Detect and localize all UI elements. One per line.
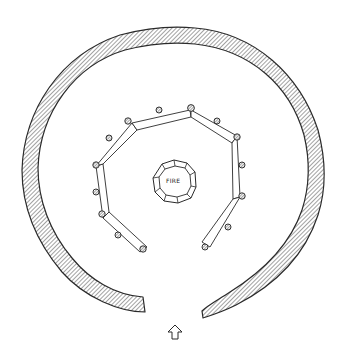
post bbox=[156, 107, 162, 113]
post bbox=[106, 135, 112, 141]
inner-bench-right bbox=[191, 110, 240, 247]
post bbox=[125, 118, 131, 124]
fire-hearth: FIRE bbox=[153, 160, 196, 203]
post bbox=[99, 211, 105, 217]
post bbox=[140, 246, 146, 252]
post bbox=[239, 193, 245, 199]
post bbox=[214, 118, 220, 124]
entrance-arrow-icon bbox=[168, 325, 182, 339]
post bbox=[93, 189, 99, 195]
post bbox=[239, 162, 245, 168]
post bbox=[115, 232, 121, 238]
roundhouse-plan-diagram: FIRE bbox=[0, 0, 348, 357]
post bbox=[234, 134, 240, 140]
post bbox=[225, 224, 231, 230]
post bbox=[93, 162, 99, 168]
post bbox=[202, 244, 208, 250]
post bbox=[188, 105, 195, 112]
fire-label: FIRE bbox=[166, 177, 180, 184]
